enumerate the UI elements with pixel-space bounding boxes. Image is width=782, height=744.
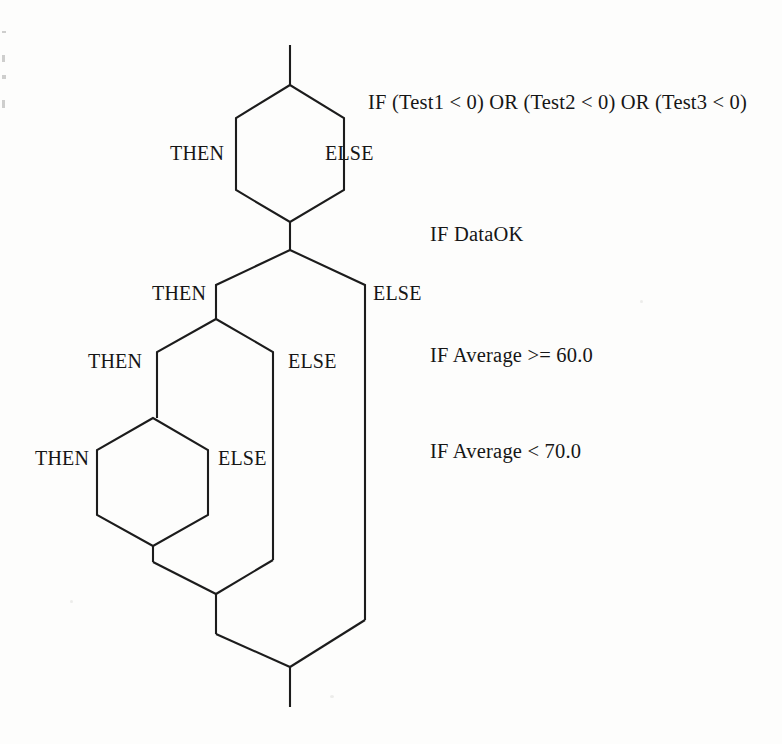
merge-decision3-right bbox=[216, 560, 273, 594]
decision-2-else-branch bbox=[290, 250, 365, 620]
decision-3-else-branch bbox=[216, 319, 273, 560]
branch-label-then-level-3: THEN bbox=[88, 351, 142, 371]
condition-label-test-sign: IF (Test1 < 0) OR (Test2 < 0) OR (Test3 … bbox=[368, 92, 747, 113]
branch-label-then-level-1: THEN bbox=[170, 143, 224, 163]
condition-label-average-ge-60: IF Average >= 60.0 bbox=[430, 345, 593, 366]
decision-3-then-branch bbox=[157, 319, 216, 418]
branch-label-else-level-3: ELSE bbox=[288, 351, 337, 371]
branch-label-then-level-2: THEN bbox=[152, 283, 206, 303]
decision-hexagon-4 bbox=[97, 418, 208, 546]
merge-decision2-left bbox=[216, 634, 290, 667]
branch-label-else-level-4: ELSE bbox=[218, 448, 267, 468]
decision-2-then-branch bbox=[216, 250, 290, 319]
branch-label-else-level-2: ELSE bbox=[373, 283, 422, 303]
merge-decision2-right bbox=[290, 620, 365, 667]
diagram-root: IF (Test1 < 0) OR (Test2 < 0) OR (Test3 … bbox=[0, 0, 782, 744]
merge-decision3-left bbox=[153, 562, 216, 594]
condition-label-dataok: IF DataOK bbox=[430, 224, 523, 245]
branch-label-then-level-4: THEN bbox=[35, 448, 89, 468]
condition-label-average-lt-70: IF Average < 70.0 bbox=[430, 441, 581, 462]
branch-label-else-level-1: ELSE bbox=[325, 143, 374, 163]
